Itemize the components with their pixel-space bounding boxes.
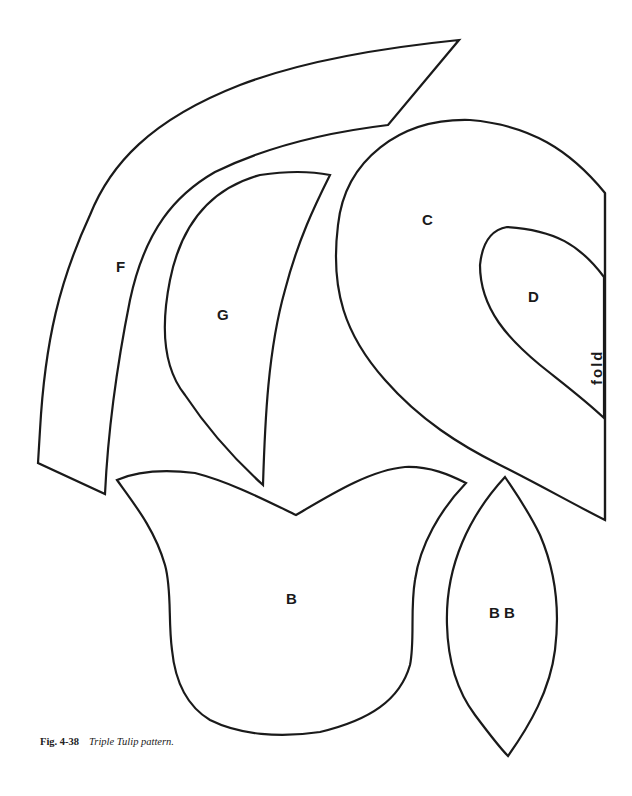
figure-title: Triple Tulip pattern. [89,736,174,747]
piece-label-d: D [528,288,539,305]
fold-label: fold [588,350,605,386]
piece-label-bb: B B [489,604,515,621]
piece-label-f: F [116,258,125,275]
pattern-canvas [0,0,632,796]
figure-caption: Fig. 4-38Triple Tulip pattern. [40,736,174,747]
piece-label-c: C [422,211,433,228]
pattern-piece-g [165,172,330,485]
piece-label-b: B [286,590,297,607]
piece-label-g: G [217,306,229,323]
figure-number: Fig. 4-38 [40,736,79,747]
